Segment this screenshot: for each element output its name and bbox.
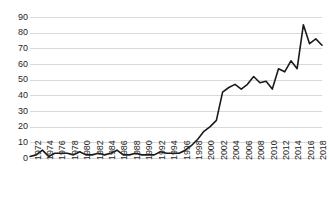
x-axis-tick-label: 1976 [58, 140, 67, 160]
x-axis-tick-label: 1990 [145, 140, 154, 160]
x-axis-tick-label: 1974 [46, 140, 55, 160]
x-axis-tick-label: 2002 [220, 140, 229, 160]
plot-area [30, 17, 322, 158]
y-axis-tick-label: 20 [2, 122, 28, 131]
x-axis-tick-label: 2016 [307, 140, 316, 160]
x-axis-tick-label: 2012 [282, 140, 291, 160]
x-axis-tick-label: 2006 [245, 140, 254, 160]
x-axis-tick-label: 1994 [170, 140, 179, 160]
y-axis-tick-label: 80 [2, 28, 28, 37]
line-chart: 0102030405060708090 19721974197619781980… [0, 0, 329, 206]
x-axis-tick-label: 2000 [207, 140, 216, 160]
x-axis-tick-label: 1996 [183, 140, 192, 160]
y-axis-tick-label: 10 [2, 138, 28, 147]
x-axis-tick-label: 2010 [270, 140, 279, 160]
y-axis-tick-label: 60 [2, 60, 28, 69]
x-axis-tick-label: 2014 [294, 140, 303, 160]
x-axis-tick-label: 2008 [257, 140, 266, 160]
y-axis-tick-label: 90 [2, 13, 28, 22]
x-axis-tick-labels: 1972197419761978198019821984198619881990… [30, 160, 322, 206]
x-axis-tick-label: 1982 [96, 140, 105, 160]
x-axis-tick-label: 1992 [158, 140, 167, 160]
x-axis-tick-label: 2018 [319, 140, 328, 160]
series-line [30, 17, 322, 158]
x-axis-tick-label: 1972 [34, 140, 43, 160]
x-axis-tick-label: 1980 [83, 140, 92, 160]
x-axis-tick-label: 1988 [133, 140, 142, 160]
x-axis-tick-label: 2004 [232, 140, 241, 160]
x-axis-tick-label: 1978 [71, 140, 80, 160]
y-axis-tick-label: 70 [2, 44, 28, 53]
x-axis-tick-label: 1986 [120, 140, 129, 160]
y-axis-tick-label: 40 [2, 91, 28, 100]
y-axis-tick-label: 50 [2, 75, 28, 84]
y-axis-tick-label: 30 [2, 107, 28, 116]
x-axis-tick-label: 1984 [108, 140, 117, 160]
y-axis-tick-label: 0 [2, 154, 28, 163]
x-axis-tick-label: 1998 [195, 140, 204, 160]
